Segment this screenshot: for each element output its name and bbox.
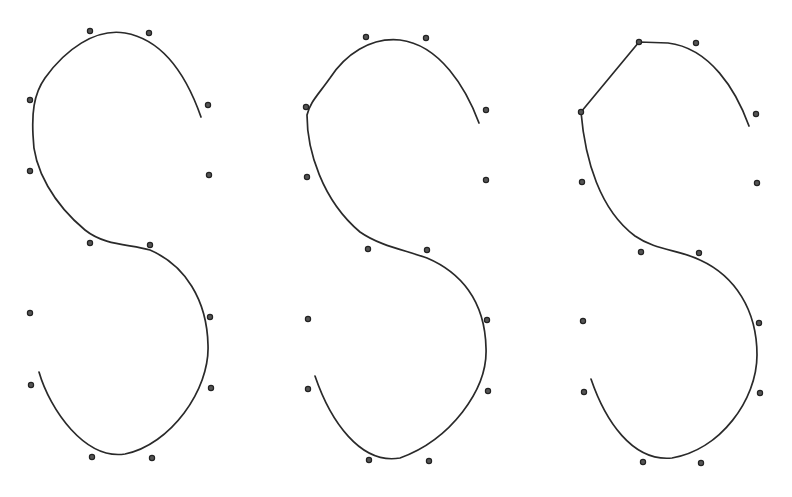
control-point: [483, 107, 488, 112]
control-point: [424, 247, 429, 252]
control-point: [579, 179, 584, 184]
control-point: [581, 389, 586, 394]
spline-figure: [0, 0, 792, 497]
control-point: [365, 246, 370, 251]
control-point: [753, 111, 758, 116]
control-point: [146, 30, 151, 35]
control-point: [305, 316, 310, 321]
control-point: [485, 388, 490, 393]
control-point: [426, 458, 431, 463]
control-points-right: [578, 39, 762, 465]
control-point: [640, 459, 645, 464]
spline-curve-middle: [307, 40, 486, 459]
control-point: [578, 109, 583, 114]
control-point: [208, 385, 213, 390]
control-point: [87, 240, 92, 245]
control-point: [303, 104, 308, 109]
spline-curve-right: [581, 42, 757, 458]
control-point: [27, 168, 32, 173]
control-point: [757, 390, 762, 395]
control-point: [754, 180, 759, 185]
control-point: [27, 97, 32, 102]
control-point: [89, 454, 94, 459]
control-point: [580, 318, 585, 323]
panel-right: [578, 39, 762, 465]
control-point: [147, 242, 152, 247]
control-point: [28, 382, 33, 387]
control-point: [756, 320, 761, 325]
control-point: [27, 310, 32, 315]
control-point: [693, 40, 698, 45]
control-point: [205, 102, 210, 107]
control-point: [636, 39, 641, 44]
control-point: [698, 460, 703, 465]
control-point: [484, 317, 489, 322]
control-point: [363, 34, 368, 39]
control-point: [304, 174, 309, 179]
control-point: [149, 455, 154, 460]
panel-middle: [303, 34, 490, 463]
spline-curve-left: [33, 32, 208, 454]
control-point: [206, 172, 211, 177]
control-point: [366, 457, 371, 462]
control-point: [483, 177, 488, 182]
control-point: [305, 386, 310, 391]
control-point: [207, 314, 212, 319]
control-point: [423, 35, 428, 40]
control-point: [696, 250, 701, 255]
control-point: [87, 28, 92, 33]
control-point: [638, 249, 643, 254]
panel-left: [27, 28, 213, 460]
